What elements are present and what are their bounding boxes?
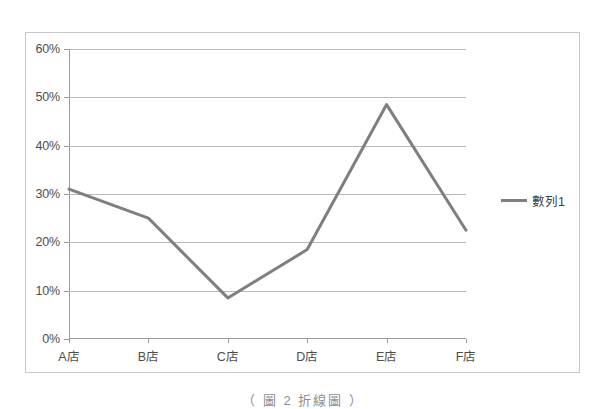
y-axis-tick-label: 20%: [36, 235, 60, 249]
x-axis-tick: [228, 339, 229, 343]
series-line-1: [69, 105, 466, 298]
x-axis-tick: [307, 339, 308, 343]
x-axis-tick-label: B店: [138, 346, 159, 365]
y-axis-tick-label: 40%: [36, 139, 60, 153]
y-axis-tick-label: 10%: [36, 284, 60, 298]
x-axis-tick: [387, 339, 388, 343]
x-axis-tick-label: A店: [58, 346, 79, 365]
x-axis-tick-label: D店: [296, 346, 318, 365]
plot-area: 0%10%20%30%40%50%60% A店B店C店D店E店F店: [69, 49, 466, 339]
chart-legend: 數列1: [501, 191, 565, 210]
x-axis-tick-label: E店: [376, 346, 397, 365]
y-axis-tick-label: 50%: [36, 90, 60, 104]
chart-frame: 0%10%20%30%40%50%60% A店B店C店D店E店F店 數列1: [25, 32, 580, 373]
x-axis-tick: [466, 339, 467, 343]
y-axis-tick-label: 60%: [36, 42, 60, 56]
x-axis-tick: [69, 339, 70, 343]
series-line-chart: [69, 49, 466, 339]
x-axis-tick-label: F店: [456, 346, 477, 365]
x-axis-tick-label: C店: [217, 346, 239, 365]
legend-item-label: 數列1: [532, 191, 565, 210]
y-axis-tick-label: 0%: [42, 332, 60, 346]
y-axis-tick-label: 30%: [36, 187, 60, 201]
figure-caption: （ 圖 2 折線圖 ）: [0, 390, 606, 409]
x-axis-tick: [148, 339, 149, 343]
legend-color-swatch: [501, 199, 527, 202]
